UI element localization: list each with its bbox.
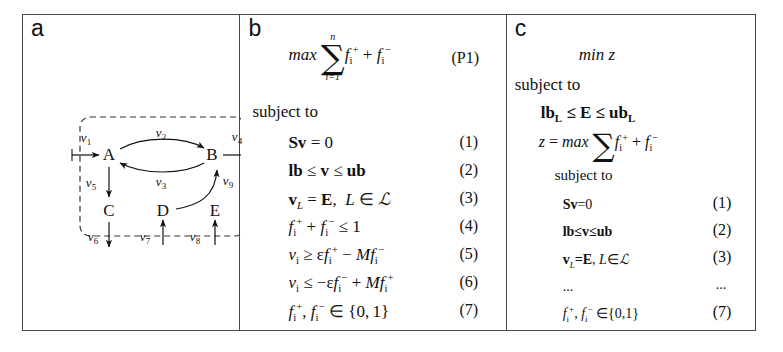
equation-1-b: Sv = 0 — [288, 133, 333, 153]
flux-sub-v1: 1 — [87, 137, 92, 147]
objective-function-b: max n∑i=1fi+ + fi− — [288, 44, 390, 68]
flux-label-v2: v2 — [156, 125, 166, 141]
tag-7-c: (7) — [713, 303, 732, 321]
flux-label-v1: v1 — [81, 130, 91, 146]
equation-6-b: vi ≤ −εfi− + Mfi+ — [288, 273, 393, 293]
equation-3-c: vL=E, L∈ℒ — [563, 251, 629, 268]
flux-sub-v8: 8 — [196, 236, 201, 246]
tag-2-c: (2) — [713, 221, 732, 239]
tag-1-b: (1) — [459, 133, 478, 151]
tag-6-b: (6) — [459, 273, 478, 291]
subject-to-c-outer: subject to — [515, 75, 581, 95]
flux-label-v7: v7 — [140, 229, 150, 245]
panel-a: a — [23, 15, 240, 330]
flux-sub-v5: 5 — [92, 182, 97, 192]
equation-2-b: lb ≤ v ≤ ub — [288, 161, 365, 181]
metabolic-network-diagram: A B C D E v1 v2 v3 v4 v5 v6 v7 v8 v9 — [23, 15, 241, 332]
equation-2-c: lb≤v≤ub — [563, 224, 613, 240]
tag-1-c: (1) — [713, 194, 732, 212]
figure-container: a — [22, 14, 756, 331]
subject-to-c-inner: subject to — [555, 167, 613, 184]
tag-3-c: (3) — [713, 248, 732, 266]
equation-7-c: fi+, fi− ∈{0,1} — [563, 305, 639, 322]
flux-label-v9: v9 — [223, 173, 233, 189]
node-E: E — [210, 201, 220, 221]
z-definition-c: z = max ∑fi+ + fi− — [539, 133, 658, 155]
equation-ellipsis-c: ... — [563, 279, 574, 295]
panel-c-equations: min z subject to lbL ≤ E ≤ ubL z = max ∑… — [507, 15, 755, 330]
equation-3-b: vL = E, L ∈ ℒ — [288, 189, 390, 210]
bounds-equation-c: lbL ≤ E ≤ ubL — [541, 103, 636, 123]
tag-4-b: (4) — [459, 217, 478, 235]
flux-sub-v7: 7 — [146, 236, 151, 246]
arrow-v3 — [120, 163, 204, 172]
tag-5-b: (5) — [459, 245, 478, 263]
tag-ellipsis-c: ... — [716, 277, 727, 293]
equation-4-b: fi+ + fi− ≤ 1 — [288, 217, 360, 237]
equation-7-b: fi+, fi− ∈ {0, 1} — [288, 301, 389, 322]
sum-lower-limit: i=1 — [326, 71, 341, 82]
tag-7-b: (7) — [459, 301, 478, 319]
tag-3-b: (3) — [459, 189, 478, 207]
equation-5-b: vi ≥ εfi+ − Mfi− — [288, 245, 384, 265]
tag-2-b: (2) — [459, 161, 478, 179]
flux-sub-v2: 2 — [162, 132, 167, 142]
subject-to-b: subject to — [252, 102, 318, 122]
flux-label-v3: v3 — [156, 174, 166, 190]
flux-label-v6: v6 — [88, 229, 98, 245]
flux-sub-v3: 3 — [162, 181, 167, 191]
node-B: B — [206, 145, 217, 165]
objective-function-c: min z — [579, 45, 615, 65]
flux-label-v8: v8 — [190, 229, 200, 245]
flux-sub-v9: 9 — [229, 180, 234, 190]
summation-symbol-c: ∑ — [593, 136, 615, 155]
flux-sub-v6: 6 — [94, 236, 99, 246]
node-D: D — [157, 201, 169, 221]
node-A: A — [103, 145, 115, 165]
panel-c: c min z subject to lbL ≤ E ≤ ubL z = max… — [507, 15, 755, 330]
panel-b: b max n∑i=1fi+ + fi− (P1) subject to Sv … — [240, 15, 506, 330]
panel-b-equations: max n∑i=1fi+ + fi− (P1) subject to Sv = … — [240, 15, 505, 330]
sum-upper-limit: n — [330, 31, 335, 42]
tag-P1: (P1) — [451, 49, 479, 67]
flux-label-v5: v5 — [86, 175, 96, 191]
equation-1-c: Sv=0 — [563, 197, 593, 213]
max-operator: max — [288, 45, 316, 64]
node-C: C — [103, 201, 114, 221]
network-svg — [23, 15, 241, 332]
summation-symbol: n∑i=1 — [321, 44, 345, 68]
